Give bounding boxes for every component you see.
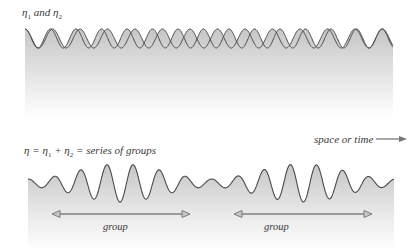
bottom-wave-panel	[28, 165, 394, 251]
equation-description: = series of groups	[73, 144, 156, 156]
plus-sign: +	[51, 144, 64, 156]
subscript-2: 2	[58, 13, 62, 21]
group-label: group	[264, 221, 289, 232]
top-wave-panel	[25, 29, 393, 118]
conjunction-text: and	[34, 6, 51, 18]
group-label: group	[103, 221, 128, 232]
top-wave-label: η1 and η2	[22, 6, 62, 21]
diagram-canvas	[0, 0, 418, 251]
equation-label: η = η1 + η2 = series of groups	[24, 144, 156, 159]
subscript-1: 1	[27, 13, 31, 21]
axis-label-text: space or time	[314, 133, 373, 145]
group-wave-fill	[28, 165, 394, 251]
arrow-right-icon	[376, 135, 408, 143]
axis-label: space or time	[314, 133, 408, 145]
equals-sign: =	[29, 144, 42, 156]
